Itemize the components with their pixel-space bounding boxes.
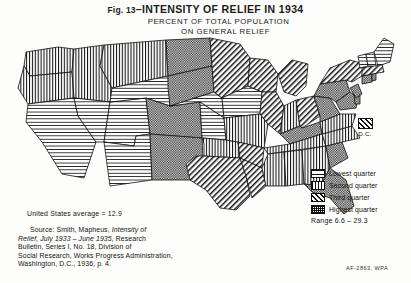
source-line-1: Source: Smith, Mapheus, Intensity of [18,226,228,235]
state-NY [320,60,364,84]
legend-item-second: Second quarter [311,180,409,191]
source-prefix: Source: Smith, Mapheus, [30,226,112,233]
state-MI [278,60,308,96]
state-WI [248,58,278,92]
state-WA [24,47,74,76]
state-MS [262,152,286,186]
legend-label-highest: Highest quarter [329,206,378,213]
legend-swatch-third [311,193,325,202]
source-title-part-1: Intensity of [112,226,147,233]
state-TX [186,156,250,210]
map-legend: Lowest quarter Second quarter Third quar… [311,168,409,224]
legend-range: Range 6.6 – 29.3 [311,217,409,224]
dc-swatch [358,118,373,129]
figure-page: Fig. 13–INTENSITY OF RELIEF IN 1934 PERC… [0,0,411,283]
legend-label-third: Third quarter [329,194,370,201]
source-title-part-2: Relief, July 1933 – June 1935, [18,235,114,242]
source-line-3: Bulletin, Series I, No. 18, Division of [18,243,228,252]
source-line-2-rest: Research [114,235,146,242]
dc-inset: D.C. [352,118,378,137]
legend-label-lowest: Lowest quarter [329,170,376,177]
state-AL [284,150,304,186]
source-line-2: Relief, July 1933 – June 1935, Research [18,235,228,244]
figure-title: Fig. 13–INTENSITY OF RELIEF IN 1934 [0,3,411,15]
wpa-credit: AF-2863, WPA [346,265,388,271]
state-ME [374,38,394,66]
state-SC [326,142,348,168]
source-line-5: Washington, D.C., 1936, p. 4. [18,260,228,269]
legend-swatch-lowest [311,169,325,178]
dc-label: D.C. [352,130,378,137]
subtitle-line-1: PERCENT OF TOTAL POPULATION [0,17,411,26]
us-average-note: United States average = 12.9 [27,210,122,217]
source-note: Source: Smith, Mapheus, Intensity of Rel… [18,226,228,269]
legend-label-second: Second quarter [329,182,378,189]
source-line-4: Social Research, Works Progress Administ… [18,252,228,261]
legend-item-lowest: Lowest quarter [311,168,409,179]
legend-swatch-second [311,181,325,190]
legend-item-highest: Highest quarter [311,204,409,215]
figure-number: Fig. 13 [107,5,135,15]
title-main: INTENSITY OF RELIEF IN 1934 [142,3,304,15]
legend-swatch-highest [311,205,325,214]
legend-item-third: Third quarter [311,192,409,203]
